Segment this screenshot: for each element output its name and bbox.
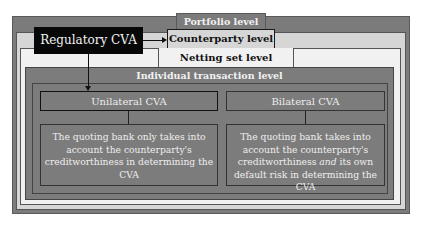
bilateral-desc-emphasis: and (319, 156, 336, 167)
netting-set-level-label: Netting set level (158, 48, 294, 68)
counterparty-level-label: Counterparty level (167, 29, 275, 49)
portfolio-level-label: Portfolio level (176, 13, 266, 29)
regulatory-cva-box: Regulatory CVA (34, 27, 143, 54)
bilateral-cva-description: The quoting bank takes into account the … (226, 124, 385, 186)
individual-transaction-level-label: Individual transaction level (25, 68, 394, 83)
arrow-right-icon (162, 37, 167, 43)
unilateral-connector (128, 111, 129, 124)
bilateral-cva-header: Bilateral CVA (226, 91, 385, 111)
bilateral-connector (305, 111, 306, 124)
unilateral-cva-description: The quoting bank only takes into account… (40, 124, 218, 186)
arrow-down-icon (85, 86, 91, 91)
unilateral-cva-header: Unilateral CVA (40, 91, 218, 111)
arrow-to-unilateral (88, 54, 89, 90)
